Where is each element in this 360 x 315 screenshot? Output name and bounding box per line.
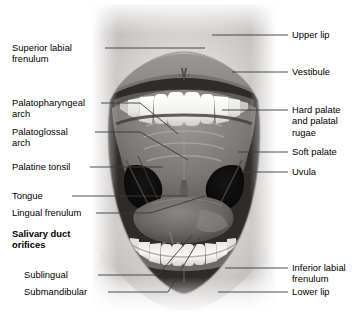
oral-cavity-photograph: [92, 4, 276, 311]
label-inferior-labial-frenulum: Inferior labial frenulum: [292, 262, 346, 285]
label-superior-labial-frenulum: Superior labial frenulum: [12, 42, 72, 65]
label-hard-palate: Hard palate and palatal rugae: [292, 104, 340, 138]
label-palatopharyngeal-arch: Palatopharyngeal arch: [12, 97, 85, 120]
label-lingual-frenulum: Lingual frenulum: [12, 207, 81, 218]
label-tongue: Tongue: [12, 190, 43, 201]
anatomy-figure: Superior labial frenulum Palatopharyngea…: [0, 0, 360, 315]
label-submandibular: Submandibular: [24, 286, 87, 297]
label-palatoglossal-arch: Palatoglossal arch: [12, 126, 68, 149]
label-upper-lip: Upper lip: [292, 29, 330, 40]
label-vestibule: Vestibule: [292, 66, 330, 77]
label-salivary-duct-orifices: Salivary duct orifices: [12, 228, 70, 251]
label-soft-palate: Soft palate: [292, 146, 337, 157]
label-uvula: Uvula: [292, 166, 316, 177]
label-lower-lip: Lower lip: [292, 286, 330, 297]
label-sublingual: Sublingual: [24, 269, 68, 280]
label-palatine-tonsil: Palatine tonsil: [12, 161, 70, 172]
